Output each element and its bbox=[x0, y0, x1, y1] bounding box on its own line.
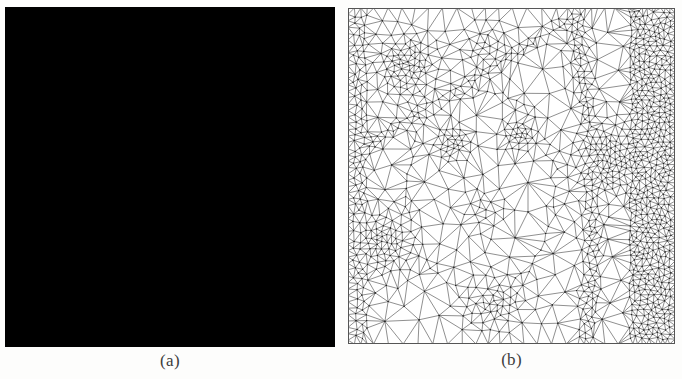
lena-grayscale-image bbox=[5, 7, 335, 347]
page-bleedthrough-text bbox=[330, 368, 682, 379]
caption-panel-b: (b) bbox=[348, 350, 675, 370]
panel-b-triangular-mesh bbox=[348, 8, 675, 344]
caption-panel-a: (a) bbox=[0, 351, 340, 371]
figure-container: (a) (b) bbox=[0, 0, 682, 379]
delaunay-mesh-svg bbox=[348, 8, 675, 344]
panel-a-source-image bbox=[5, 7, 335, 347]
